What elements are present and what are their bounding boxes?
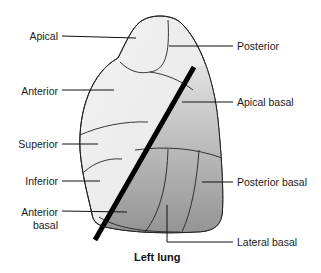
label-posterior-basal: Posterior basal [237,176,307,188]
label-apical: Apical [0,30,58,42]
label-anterior-basal-line2: basal [0,219,58,231]
label-lateral-basal: Lateral basal [237,236,297,248]
label-apical-basal: Apical basal [237,96,294,108]
label-inferior: Inferior [0,175,58,187]
label-superior: Superior [0,138,58,150]
diagram-title: Left lung [134,251,180,263]
label-anterior: Anterior [0,85,58,97]
label-anterior-basal-line1: Anterior [0,206,58,218]
label-posterior: Posterior [237,40,279,52]
